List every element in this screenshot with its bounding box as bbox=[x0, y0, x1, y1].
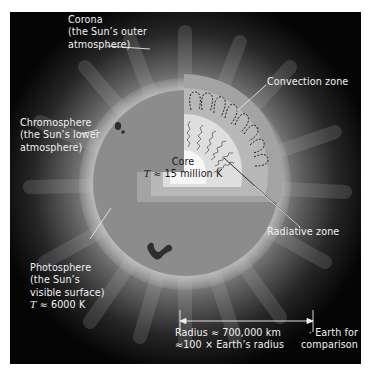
convection-zone-label: Convection zone bbox=[267, 76, 348, 88]
radius-label: Radius ≈ 700,000 km ≈100 × Earth’s radiu… bbox=[175, 327, 284, 352]
sun-diagram: Corona (the Sun’s outer atmosphere) Chro… bbox=[10, 12, 361, 364]
photosphere-temp-value: ≈ 6000 K bbox=[40, 299, 86, 310]
earth-dot-icon: · bbox=[309, 327, 312, 338]
corona-label: Corona (the Sun’s outer atmosphere) bbox=[68, 14, 147, 51]
photosphere-label: Photosphere (the Sun’s visible surface) … bbox=[30, 262, 105, 312]
earth-comparison-label: · Earth for comparison bbox=[301, 327, 358, 352]
core-temp-symbol: T bbox=[144, 168, 151, 179]
core-label: Core T ≈ 15 million K bbox=[123, 156, 243, 181]
chromosphere-label: Chromosphere (the Sun’s lower atmosphere… bbox=[20, 117, 100, 154]
core-temp-value: ≈ 15 million K bbox=[153, 168, 222, 179]
radiative-zone-label: Radiative zone bbox=[267, 226, 339, 238]
photosphere-temp-symbol: T bbox=[30, 299, 37, 310]
